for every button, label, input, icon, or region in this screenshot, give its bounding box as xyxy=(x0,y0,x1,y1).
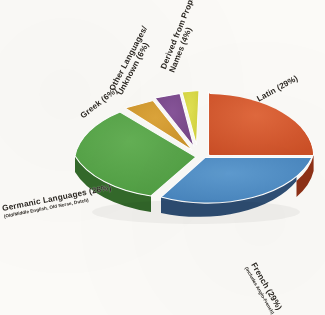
pie-chart-figure: Latin (29%) French (29%) (includes Anglo… xyxy=(0,0,325,315)
pie-chart-svg xyxy=(0,0,325,315)
pie-drop-shadow xyxy=(92,200,300,224)
